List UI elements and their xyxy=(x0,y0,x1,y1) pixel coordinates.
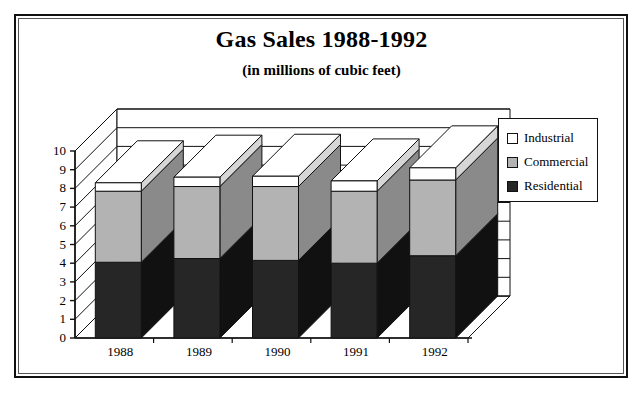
legend-swatch-commercial xyxy=(507,157,518,168)
y-axis-tick-label: 6 xyxy=(40,219,66,232)
x-axis-tick-label: 1992 xyxy=(400,344,470,360)
y-axis-tick-label: 10 xyxy=(40,144,66,157)
x-axis-tick-label: 1990 xyxy=(243,344,313,360)
y-axis-tick-label: 8 xyxy=(40,181,66,194)
y-axis-tick-label: 5 xyxy=(40,238,66,251)
legend-label-industrial: Industrial xyxy=(524,130,574,146)
bar-segment-industrial-front xyxy=(253,176,299,186)
legend-swatch-industrial xyxy=(507,133,518,144)
y-axis-tick-label: 0 xyxy=(40,331,66,344)
y-axis-tick-label: 4 xyxy=(40,256,66,269)
x-axis-tick-label: 1988 xyxy=(85,344,155,360)
legend-item: Commercial xyxy=(507,150,597,174)
chart-figure: Gas Sales 1988-1992 (in millions of cubi… xyxy=(0,0,643,395)
x-axis-tick-label: 1989 xyxy=(164,344,234,360)
y-axis-tick-label: 9 xyxy=(40,163,66,176)
bar-segment-industrial-front xyxy=(95,183,141,191)
bar-segment-residential-front xyxy=(174,259,220,338)
legend-item: Industrial xyxy=(507,126,597,150)
bar-segment-commercial-front xyxy=(95,191,141,262)
bar-segment-industrial-front xyxy=(410,168,456,180)
y-axis-tick-label: 7 xyxy=(40,200,66,213)
y-axis-tick-label: 3 xyxy=(40,275,66,288)
bar-segment-residential-front xyxy=(253,260,299,338)
bar-segment-commercial-front xyxy=(174,187,220,259)
legend-label-residential: Residential xyxy=(524,178,583,194)
chart-legend: Industrial Commercial Residential xyxy=(498,118,598,202)
bar-segment-commercial-front xyxy=(253,187,299,261)
y-axis-tick-label: 2 xyxy=(40,294,66,307)
bar-segment-residential-front xyxy=(331,263,377,338)
bar-segment-residential-front xyxy=(410,256,456,338)
bar-segment-industrial-front xyxy=(331,181,377,191)
legend-item: Residential xyxy=(507,174,597,198)
y-axis-tick-label: 1 xyxy=(40,312,66,325)
bar-segment-residential-front xyxy=(95,262,141,338)
bar-segment-commercial-front xyxy=(410,180,456,256)
legend-label-commercial: Commercial xyxy=(524,154,588,170)
bar-segment-commercial-front xyxy=(331,191,377,263)
bar-segment-industrial-front xyxy=(174,177,220,186)
legend-swatch-residential xyxy=(507,181,518,192)
x-axis-tick-label: 1991 xyxy=(321,344,391,360)
